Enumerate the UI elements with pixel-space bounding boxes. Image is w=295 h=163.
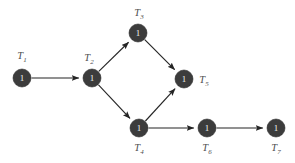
edge-t3-to-t5 [145, 40, 175, 70]
node-t7[interactable]: 1 [267, 119, 285, 137]
edge-t2-to-t3 [99, 42, 129, 71]
node-label-t2: T2 [84, 52, 94, 65]
node-t3[interactable]: 1 [129, 24, 147, 42]
node-t2[interactable]: 1 [83, 69, 101, 87]
node-label-t5: T5 [199, 74, 209, 87]
node-label-t3: T3 [134, 7, 144, 20]
node-label-t4: T4 [134, 142, 144, 155]
node-value-t5: 1 [182, 74, 187, 84]
node-value-t7: 1 [274, 123, 279, 133]
node-layer: 1111111 [13, 24, 285, 137]
edge-t4-to-t5 [145, 89, 175, 121]
node-value-t4: 1 [137, 123, 142, 133]
graph-canvas: 1111111 T1T2T3T4T5T6T7 [0, 0, 295, 163]
node-label-t7: T7 [271, 142, 281, 155]
edge-layer [32, 40, 263, 128]
node-value-t3: 1 [136, 28, 141, 38]
edge-t2-to-t4 [99, 85, 130, 118]
node-value-t2: 1 [90, 73, 95, 83]
node-t5[interactable]: 1 [175, 70, 193, 88]
node-value-t6: 1 [205, 123, 210, 133]
label-layer: T1T2T3T4T5T6T7 [17, 7, 281, 155]
node-label-t6: T6 [202, 142, 212, 155]
task-graph-diagram: 1111111 T1T2T3T4T5T6T7 [0, 0, 295, 163]
node-label-t1: T1 [17, 50, 26, 63]
node-t1[interactable]: 1 [13, 69, 31, 87]
node-value-t1: 1 [20, 73, 25, 83]
node-t4[interactable]: 1 [130, 119, 148, 137]
node-t6[interactable]: 1 [198, 119, 216, 137]
